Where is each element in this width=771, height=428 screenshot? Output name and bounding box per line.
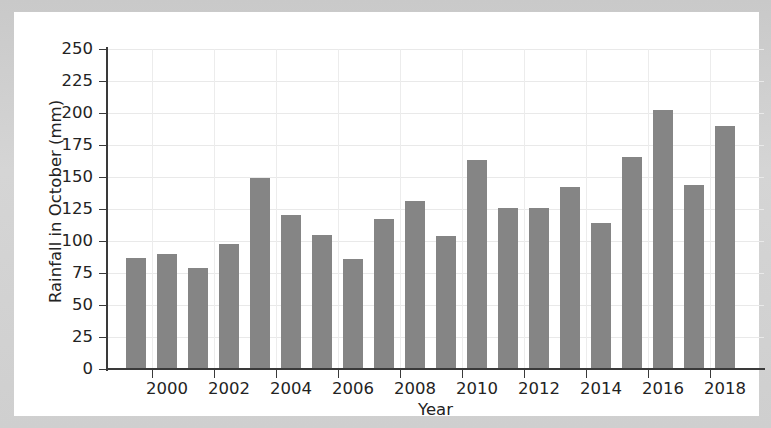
x-tick-mark <box>710 370 711 378</box>
bar <box>343 259 363 369</box>
x-axis-line <box>106 368 765 370</box>
y-tick-mark <box>99 369 107 370</box>
bar <box>436 236 456 369</box>
bar <box>281 215 301 369</box>
y-tick-mark <box>99 241 107 242</box>
x-tick-label: 2016 <box>628 381 698 398</box>
gridline-vertical <box>586 49 587 369</box>
x-tick-mark <box>462 370 463 378</box>
gridline-vertical <box>338 49 339 369</box>
bar <box>653 110 673 369</box>
bar <box>591 223 611 369</box>
y-tick-mark <box>99 305 107 306</box>
bar <box>126 258 146 369</box>
x-tick-label: 2008 <box>380 381 450 398</box>
x-tick-mark <box>214 370 215 378</box>
plot-area <box>107 49 764 369</box>
x-axis-title: Year <box>106 400 765 419</box>
bar <box>188 268 208 369</box>
chart-canvas: 0255075100125150175200225250 20002002200… <box>14 12 759 416</box>
x-tick-mark <box>586 370 587 378</box>
y-tick-label: 0 <box>47 361 93 378</box>
y-tick-mark <box>99 273 107 274</box>
y-tick-mark <box>99 177 107 178</box>
bar <box>560 187 580 369</box>
bar <box>622 157 642 369</box>
y-tick-mark <box>99 145 107 146</box>
gridline-vertical <box>214 49 215 369</box>
bar <box>219 244 239 369</box>
y-tick-mark <box>99 209 107 210</box>
bar <box>405 201 425 369</box>
gridline-vertical <box>400 49 401 369</box>
x-tick-mark <box>276 370 277 378</box>
gridline-horizontal <box>107 81 764 82</box>
y-tick-mark <box>99 49 107 50</box>
bar <box>157 254 177 369</box>
gridline-horizontal <box>107 49 764 50</box>
x-tick-label: 2002 <box>194 381 264 398</box>
x-tick-label: 2006 <box>318 381 388 398</box>
x-tick-label: 2004 <box>256 381 326 398</box>
bar <box>312 235 332 369</box>
figure-outer-frame: 0255075100125150175200225250 20002002200… <box>0 0 771 428</box>
x-tick-label: 2010 <box>442 381 512 398</box>
x-tick-label: 2018 <box>690 381 760 398</box>
bar <box>250 178 270 369</box>
y-axis-title: Rainfall in October (mm) <box>46 57 65 347</box>
bar <box>529 208 549 369</box>
gridline-vertical <box>462 49 463 369</box>
x-tick-mark <box>400 370 401 378</box>
bar <box>374 219 394 369</box>
gridline-vertical <box>524 49 525 369</box>
y-tick-label: 250 <box>47 41 93 58</box>
x-tick-label: 2012 <box>504 381 574 398</box>
x-tick-mark <box>524 370 525 378</box>
y-tick-mark <box>99 113 107 114</box>
x-tick-mark <box>338 370 339 378</box>
bar <box>715 126 735 369</box>
bar <box>684 185 704 369</box>
x-tick-mark <box>648 370 649 378</box>
gridline-vertical <box>152 49 153 369</box>
y-tick-mark <box>99 81 107 82</box>
x-tick-label: 2014 <box>566 381 636 398</box>
x-tick-label: 2000 <box>132 381 202 398</box>
y-tick-mark <box>99 337 107 338</box>
gridline-vertical <box>710 49 711 369</box>
gridline-vertical <box>648 49 649 369</box>
gridline-vertical <box>276 49 277 369</box>
bar <box>498 208 518 369</box>
x-tick-mark <box>152 370 153 378</box>
bar <box>467 160 487 369</box>
